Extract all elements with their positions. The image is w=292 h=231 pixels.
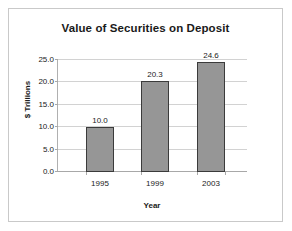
y-tick-label-0: 0.0: [43, 167, 54, 176]
bar-value-2003: 24.6: [203, 51, 219, 60]
bar-group-1999: 20.3 1999: [141, 59, 169, 172]
chart-frame: Value of Securities on Deposit $ Trillio…: [8, 8, 283, 222]
x-tickmark-right-2003: [225, 172, 226, 175]
bar-value-1995: 10.0: [92, 116, 108, 125]
bar-1995[interactable]: [86, 127, 114, 172]
x-tick-label-1995: 1995: [91, 179, 109, 188]
chart-title: Value of Securities on Deposit: [9, 22, 282, 34]
y-tick-label-5: 5.0: [43, 144, 54, 153]
y-tick-label-20: 20.0: [38, 77, 54, 86]
bar-1999[interactable]: [141, 81, 169, 172]
x-axis-title: Year: [57, 201, 247, 210]
plot-area: 25.0 20.0 15.0 10.0 5.0 0.0: [57, 59, 247, 172]
x-tickmark-left-2003: [197, 172, 198, 175]
y-tick-label-15: 15.0: [38, 99, 54, 108]
x-tickmark-left-1995: [86, 172, 87, 175]
x-tick-label-1999: 1999: [146, 179, 164, 188]
bar-group-1995: 10.0 1995: [86, 59, 114, 172]
bar-group-2003: 24.6 2003: [197, 59, 225, 172]
bar-value-1999: 20.3: [147, 70, 163, 79]
x-tickmark-left-1999: [141, 172, 142, 175]
bar-2003[interactable]: [197, 62, 225, 172]
x-tick-label-2003: 2003: [202, 179, 220, 188]
y-tick-label-10: 10.0: [38, 122, 54, 131]
screenshot-root: Value of Securities on Deposit $ Trillio…: [0, 0, 292, 231]
bar-series: 10.0 1995 20.3 1999 24.6 2003: [58, 59, 247, 172]
y-axis-title: $ Trillions: [23, 69, 32, 131]
y-tick-label-25: 25.0: [38, 55, 54, 64]
